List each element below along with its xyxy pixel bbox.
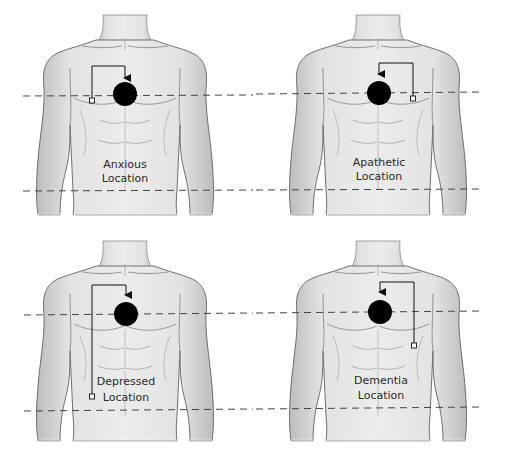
panel-anxious: Anxious Location [23, 15, 253, 220]
torso-illustration [30, 15, 220, 220]
location-label-line1: Depressed [97, 375, 155, 388]
location-label-line1: Anxious [103, 158, 147, 171]
location-label-line2: Location [358, 389, 405, 402]
heart-marker-icon [368, 300, 392, 324]
origin-square-icon [412, 343, 417, 348]
origin-square-icon [90, 98, 95, 103]
origin-square-icon [90, 394, 95, 399]
panel-depressed: Depressed Location [24, 241, 253, 446]
location-label-line2: Location [103, 391, 150, 404]
location-label-line1: Apathetic [353, 156, 406, 169]
torso-illustration [30, 241, 220, 446]
location-label-line2: Location [356, 170, 403, 183]
origin-square-icon [411, 96, 416, 101]
heart-marker-icon [113, 82, 137, 106]
location-label-line2: Location [102, 172, 149, 185]
heart-marker-icon [114, 302, 138, 326]
torso-diagram-grid: Anxious Location Apathetic Location Depr… [0, 0, 506, 453]
panel-dementia: Dementia Location [256, 241, 483, 446]
heart-marker-icon [367, 81, 391, 105]
panel-apathetic: Apathetic Location [256, 15, 483, 220]
torso-illustration [283, 241, 473, 446]
location-label-line1: Dementia [354, 374, 408, 387]
